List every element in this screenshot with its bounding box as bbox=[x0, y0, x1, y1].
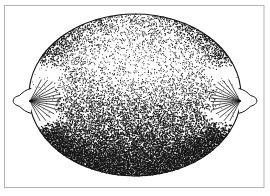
lemon-body-outline bbox=[29, 14, 241, 176]
lemon-illustration bbox=[0, 0, 270, 196]
left-tip-nipple bbox=[13, 89, 31, 114]
right-tip-nipple bbox=[239, 89, 257, 114]
line-art-layer bbox=[0, 0, 270, 196]
left-tip-radiating-lines bbox=[30, 80, 60, 121]
right-tip-radiating-lines bbox=[210, 80, 240, 121]
picture-frame-border bbox=[5, 6, 265, 188]
